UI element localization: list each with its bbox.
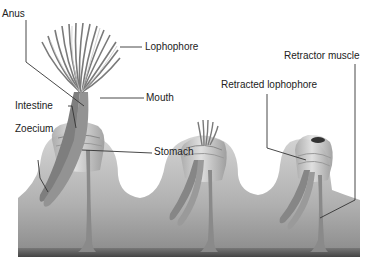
bryozoan-diagram: Anus Lophophore Mouth Intestine Zoecium … xyxy=(0,0,367,259)
label-retracted-lophophore: Retracted lophophore xyxy=(221,79,317,91)
label-anus: Anus xyxy=(2,8,25,20)
label-mouth: Mouth xyxy=(146,92,174,104)
lophophore-tentacles xyxy=(42,23,120,92)
colony-base xyxy=(18,248,360,257)
label-intestine: Intestine xyxy=(15,100,53,112)
label-stomach: Stomach xyxy=(154,146,193,158)
zooid-opening xyxy=(311,137,325,143)
label-retractor-muscle: Retractor muscle xyxy=(284,50,360,62)
label-lophophore: Lophophore xyxy=(145,41,198,53)
diagram-illustration xyxy=(0,0,367,259)
label-zoecium: Zoecium xyxy=(15,123,53,135)
